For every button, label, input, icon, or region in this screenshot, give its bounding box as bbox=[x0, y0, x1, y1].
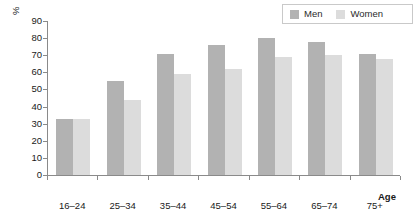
bar-group bbox=[107, 21, 141, 175]
bar-group bbox=[56, 21, 90, 175]
y-axis-tick-label: 0 bbox=[20, 170, 42, 180]
bar-groups bbox=[48, 21, 400, 175]
bar-women-45-54 bbox=[225, 69, 242, 175]
x-axis-tick-mark bbox=[299, 176, 300, 180]
y-axis-tick-label: 50 bbox=[20, 84, 42, 94]
x-axis-tick-label: 75+ bbox=[345, 201, 405, 211]
bar-women-16-24 bbox=[73, 119, 90, 175]
x-axis-tick-mark bbox=[97, 176, 98, 180]
legend-label-men: Men bbox=[304, 9, 322, 19]
x-axis-tick-mark bbox=[47, 176, 48, 180]
bar-women-65-74 bbox=[325, 55, 342, 175]
bar-men-16-24 bbox=[56, 119, 73, 175]
y-axis-tick-mark bbox=[43, 158, 47, 159]
y-axis-tick-mark bbox=[43, 124, 47, 125]
bar-women-55-64 bbox=[275, 57, 292, 175]
plot-area: 0102030405060708090 16–2425–3435–4445–54… bbox=[47, 21, 400, 175]
bar-women-25-34 bbox=[124, 100, 141, 175]
legend-swatch-men-icon bbox=[290, 10, 299, 19]
x-axis-line bbox=[47, 175, 400, 176]
bar-group bbox=[208, 21, 242, 175]
bar-men-65-74 bbox=[308, 42, 325, 175]
y-axis-tick-label: 90 bbox=[20, 16, 42, 26]
bar-women-75+ bbox=[376, 59, 393, 175]
y-axis-tick-mark bbox=[43, 21, 47, 22]
y-axis-tick-label: 70 bbox=[20, 50, 42, 60]
y-axis-tick-mark bbox=[43, 89, 47, 90]
x-axis-tick-mark bbox=[198, 176, 199, 180]
bar-men-35-44 bbox=[157, 54, 174, 175]
x-axis-tick-mark bbox=[148, 176, 149, 180]
x-axis-tick-mark bbox=[350, 176, 351, 180]
bar-men-45-54 bbox=[208, 45, 225, 175]
y-axis-tick-label: 30 bbox=[20, 119, 42, 129]
y-axis-label: % bbox=[11, 7, 21, 15]
y-axis-tick-mark bbox=[43, 141, 47, 142]
y-axis-tick-label: 40 bbox=[20, 102, 42, 112]
y-axis-tick-label: 80 bbox=[20, 33, 42, 43]
legend-item-women: Women bbox=[336, 9, 383, 19]
y-axis-tick-label: 60 bbox=[20, 67, 42, 77]
bar-group bbox=[359, 21, 393, 175]
bar-men-25-34 bbox=[107, 81, 124, 175]
x-axis-tick-mark bbox=[400, 176, 401, 180]
bar-group bbox=[157, 21, 191, 175]
bar-group bbox=[258, 21, 292, 175]
y-axis-tick-mark bbox=[43, 72, 47, 73]
bar-group bbox=[308, 21, 342, 175]
legend-label-women: Women bbox=[350, 9, 383, 19]
y-axis-tick-mark bbox=[43, 38, 47, 39]
y-axis-tick-mark bbox=[43, 107, 47, 108]
bar-men-55-64 bbox=[258, 38, 275, 175]
bar-men-75+ bbox=[359, 54, 376, 175]
y-axis-tick-mark bbox=[43, 55, 47, 56]
legend-swatch-women-icon bbox=[336, 10, 345, 19]
y-axis-tick-label: 20 bbox=[20, 136, 42, 146]
legend-item-men: Men bbox=[290, 9, 322, 19]
bar-women-35-44 bbox=[174, 74, 191, 175]
bar-chart: Men Women % Age 0102030405060708090 16–2… bbox=[0, 0, 419, 212]
x-axis-tick-mark bbox=[249, 176, 250, 180]
y-axis-tick-label: 10 bbox=[20, 153, 42, 163]
